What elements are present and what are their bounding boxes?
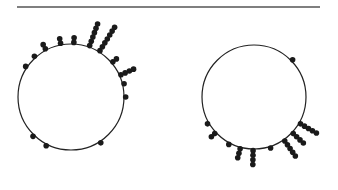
data-dot [121,81,127,87]
data-dot [131,66,137,72]
dot-stack [268,145,274,151]
right-circular-plot [202,45,319,167]
data-dot [23,64,29,70]
dot-stack [110,56,119,65]
dot-stack [235,146,243,160]
dot-stack [30,134,36,140]
dot-stack [205,121,211,127]
data-dot [32,54,38,60]
dot-stack [87,21,100,48]
dot-stack [97,24,117,53]
data-dot [268,145,274,151]
dot-stack [40,42,48,52]
dot-stack [71,35,77,45]
data-dot [301,140,307,146]
data-dot [43,143,49,149]
dot-stack [298,121,320,136]
data-dot [293,153,299,159]
data-dot [226,142,232,148]
data-dot [290,57,296,63]
dot-stack [282,138,298,159]
data-dot [114,56,120,62]
dot-stack [32,54,38,60]
dot-stack [121,81,127,87]
dot-stack [123,94,129,100]
dot-stack [98,140,104,146]
data-dot [123,94,129,100]
data-dot [57,36,63,42]
data-dot [250,162,256,168]
dot-stack [209,131,218,140]
dot-stack [118,66,136,77]
data-dot [40,42,46,48]
dot-stack [290,131,306,146]
dot-stack [250,148,256,167]
dot-stack [43,143,49,149]
dot-stack [57,36,63,46]
data-dot [235,155,241,161]
data-dot [209,134,215,140]
left-circular-plot [18,21,136,150]
plots-group [18,21,319,167]
data-dot [112,24,118,30]
data-dot [314,130,320,136]
data-dot [30,134,36,140]
data-dot [95,21,101,27]
dot-stack [23,64,29,70]
dot-stack [226,142,232,148]
data-dot [205,121,211,127]
circular-dot-plots-figure [0,0,338,190]
data-dot [71,35,77,41]
data-dot [98,140,104,146]
dot-stack [290,57,296,63]
